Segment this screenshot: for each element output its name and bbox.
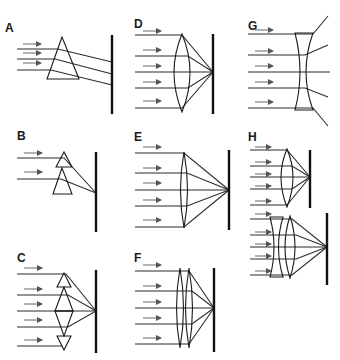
- panel-h: H: [248, 130, 327, 285]
- panel-e: E: [134, 130, 229, 230]
- panel-label-e: E: [134, 130, 142, 144]
- panel-label-f: F: [134, 251, 141, 265]
- panel-c: C: [17, 251, 96, 353]
- panel-a: A: [5, 21, 112, 114]
- rays-b: [17, 158, 96, 193]
- panel-h-convex-only: [250, 147, 310, 208]
- lens-h-convex: [281, 149, 293, 207]
- optics-diagram: A B C: [0, 0, 340, 360]
- incident-arrows-f: [143, 265, 161, 338]
- incident-arrows-h-top: [255, 147, 271, 201]
- panel-label-g: G: [248, 19, 257, 33]
- rays-c: [17, 274, 96, 346]
- panel-g: G: [248, 16, 330, 126]
- prism-c-top: [57, 273, 71, 287]
- panel-f: F: [134, 251, 214, 352]
- prism-c-bottom: [57, 336, 71, 350]
- panel-h-combination: [250, 213, 327, 285]
- incident-arrows-e: [143, 147, 161, 220]
- rays-a: [17, 49, 112, 85]
- incident-arrows-g: [255, 30, 273, 102]
- lens-d-biconvex: [174, 34, 190, 112]
- incident-arrows-a: [23, 44, 41, 63]
- panel-b: B: [17, 129, 96, 232]
- incident-arrows-b: [24, 153, 42, 172]
- panel-label-h: H: [248, 130, 257, 144]
- panel-d: D: [134, 17, 213, 114]
- panel-label-b: B: [17, 129, 26, 143]
- incident-arrows-d: [143, 31, 161, 101]
- prism-c-lower-mid: [55, 311, 73, 336]
- panel-label-a: A: [5, 21, 14, 35]
- prism-c-upper-mid: [55, 287, 73, 311]
- panel-label-d: D: [134, 17, 143, 31]
- incident-arrows-h-bottom: [255, 214, 271, 271]
- incident-arrows-c: [24, 268, 42, 340]
- rays-h-bottom: [250, 219, 327, 275]
- rays-h-top: [250, 150, 310, 205]
- rays-g: [248, 16, 330, 126]
- panel-label-c: C: [17, 251, 26, 265]
- prism-b-lower: [53, 168, 72, 194]
- rays-f: [135, 271, 214, 344]
